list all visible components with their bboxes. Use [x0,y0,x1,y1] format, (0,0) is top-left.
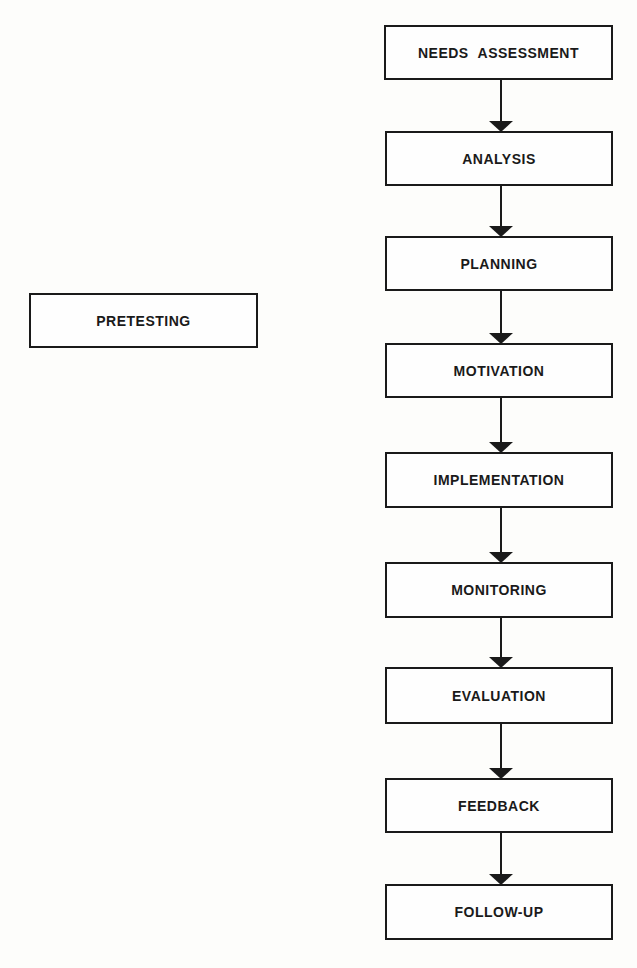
arrow-down-icon [489,291,513,344]
arrow-down-icon [489,724,513,779]
arrow-down-icon [489,618,513,668]
flow-arrows [0,0,637,968]
arrow-down-icon [489,186,513,237]
arrow-down-icon [489,833,513,885]
arrow-down-icon [489,80,513,132]
arrow-down-icon [489,508,513,563]
arrow-down-icon [489,398,513,453]
